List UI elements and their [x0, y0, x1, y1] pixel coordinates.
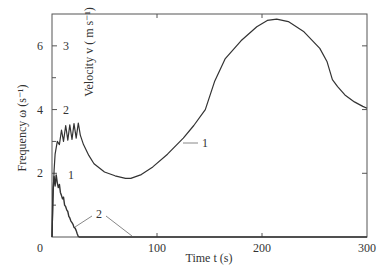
plot-frame	[52, 14, 367, 237]
x-tick-label: 100	[148, 241, 166, 255]
annotations: 112	[68, 136, 208, 236]
y-axis-velocity-title: Velocity v ( m s⁻¹)	[82, 7, 96, 97]
chart: 0100200300 246 23 112 Time t (s) Frequen…	[0, 0, 386, 280]
annotation-leader	[106, 216, 132, 236]
y-left-tick-label: 4	[37, 103, 43, 117]
annotation-label-frequency: 1	[68, 168, 74, 182]
y-axis-left-title: Frequency ω (s⁻¹)	[15, 85, 29, 172]
series-line-velocity	[52, 19, 367, 237]
x-tick-label: 0	[37, 241, 43, 255]
series-group	[52, 19, 367, 237]
series-line-frequency	[52, 175, 367, 237]
y-left-tick-label: 6	[37, 39, 43, 53]
x-tick-label: 300	[358, 241, 376, 255]
annotation-leader	[75, 216, 92, 227]
annotation-label-velocity: 1	[202, 136, 208, 150]
y-axis-velocity-ticks: 23	[63, 39, 69, 117]
annotation-label-2: 2	[96, 207, 102, 221]
x-tick-label: 200	[253, 241, 271, 255]
x-axis-title: Time t (s)	[186, 251, 233, 265]
y-velocity-tick-label: 3	[63, 39, 69, 53]
y-left-tick-label: 2	[37, 166, 43, 180]
y-velocity-tick-label: 2	[63, 103, 69, 117]
